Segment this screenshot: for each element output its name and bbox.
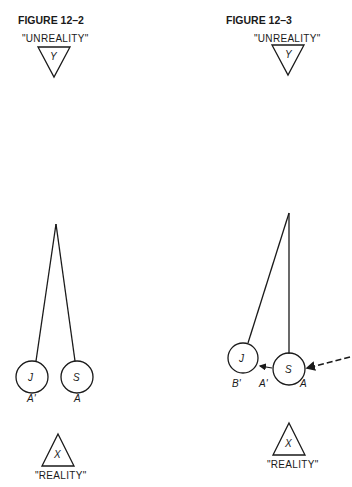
unreality-symbol: Y <box>50 51 58 62</box>
ball-j-label: J <box>238 353 245 364</box>
pendulum-string-left <box>248 213 289 343</box>
arrow-s-to-j-icon <box>260 366 272 368</box>
reality-symbol: X <box>53 449 61 460</box>
diagram-canvas: FIGURE 12–2 "UNREALITY" Y J S A' A X "RE… <box>0 0 352 487</box>
position-label-a: A <box>299 378 307 389</box>
figure-title: FIGURE 12–3 <box>226 14 292 26</box>
pendulum-string-left <box>36 224 56 361</box>
figure-12-3: FIGURE 12–3 "UNREALITY" Y J S B' A' A X … <box>226 14 350 470</box>
unreality-label: "UNREALITY" <box>254 33 321 44</box>
position-label-a-prime: A' <box>258 378 269 389</box>
position-label-a-prime: A' <box>26 393 37 404</box>
pendulum-string-right <box>56 224 75 361</box>
ball-s-label: S <box>285 364 292 375</box>
position-label-b-prime: B' <box>232 378 242 389</box>
unreality-label: "UNREALITY" <box>22 33 89 44</box>
position-label-a: A <box>73 393 81 404</box>
reality-label: "REALITY" <box>35 470 87 481</box>
ball-s-label: S <box>73 372 80 383</box>
reality-label: "REALITY" <box>267 459 319 470</box>
ball-j-label: J <box>27 372 34 383</box>
dashed-incoming-arrow-icon <box>307 357 350 368</box>
figure-title: FIGURE 12–2 <box>18 14 84 26</box>
unreality-symbol: Y <box>285 49 293 60</box>
figure-12-2: FIGURE 12–2 "UNREALITY" Y J S A' A X "RE… <box>16 14 93 481</box>
reality-symbol: X <box>284 438 292 449</box>
